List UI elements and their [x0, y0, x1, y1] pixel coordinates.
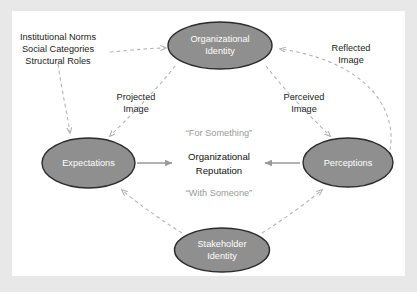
edge-stakeholder-to-expectations: [122, 190, 182, 233]
edge-antecedents-to-organizational-identity: [110, 48, 166, 52]
antecedents-line-2: Social Categories: [22, 44, 94, 54]
edge-label-projected-image: Projected Image: [117, 92, 156, 114]
center-text-block: “For Something” Organizational Reputatio…: [186, 128, 252, 198]
projected-image-line-1: Projected: [117, 92, 156, 102]
node-perceptions-label: Perceptions: [324, 158, 373, 168]
node-organizational-identity-label-line1: Organizational: [190, 34, 249, 44]
antecedents-line-1: Institutional Norms: [20, 32, 96, 42]
node-organizational-identity-label-line2: Identity: [205, 46, 235, 56]
center-top-quote: “For Something”: [186, 128, 252, 138]
node-expectations-label: Expectations: [62, 158, 115, 168]
reflected-image-line-1: Reflected: [332, 43, 371, 53]
edge-label-reflected-image: Reflected Image: [332, 43, 371, 65]
figure-root: Organizational Identity Expectations Per…: [0, 0, 417, 302]
node-stakeholder-identity-label-line1: Stakeholder: [197, 239, 246, 249]
projected-image-line-2: Image: [123, 104, 149, 114]
perceived-image-line-2: Image: [291, 104, 317, 114]
edge-label-perceived-image: Perceived Image: [284, 92, 325, 114]
center-title-line-1: Organizational: [188, 151, 250, 162]
center-bottom-quote: “With Someone”: [186, 188, 252, 198]
antecedents-line-3: Structural Roles: [25, 56, 91, 66]
antecedents-text-block: Institutional Norms Social Categories St…: [20, 32, 96, 66]
edge-antecedents-to-expectations: [58, 64, 70, 133]
node-stakeholder-identity-label-line2: Identity: [207, 251, 237, 261]
edge-stakeholder-to-perceptions: [262, 190, 322, 233]
node-expectations[interactable]: Expectations: [42, 138, 135, 188]
reflected-image-line-2: Image: [338, 55, 364, 65]
node-perceptions[interactable]: Perceptions: [303, 138, 393, 187]
perceived-image-line-1: Perceived: [284, 92, 325, 102]
center-title-line-2: Reputation: [196, 165, 242, 176]
node-stakeholder-identity[interactable]: Stakeholder Identity: [175, 228, 270, 272]
node-organizational-identity[interactable]: Organizational Identity: [168, 22, 272, 69]
diagram-svg: Organizational Identity Expectations Per…: [0, 0, 417, 302]
